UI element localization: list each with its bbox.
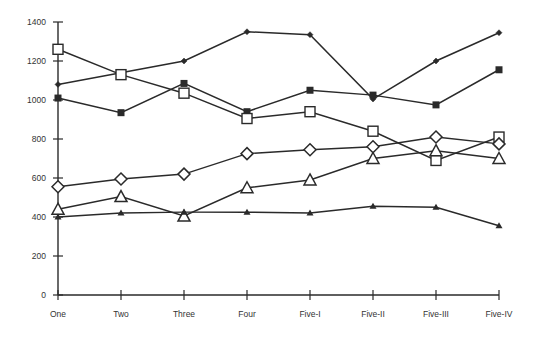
data-point-marker: [242, 114, 252, 124]
data-point-marker: [304, 174, 316, 185]
data-point-marker: [53, 44, 63, 54]
data-point-marker: [304, 144, 316, 156]
data-point-marker: [179, 88, 189, 98]
data-point-marker: [115, 173, 127, 185]
data-point-marker: [241, 148, 253, 160]
data-point-marker: [305, 107, 315, 117]
x-tick-label: Five-I: [299, 309, 320, 319]
y-axis: 0200400600800100012001400: [27, 17, 63, 300]
data-point-marker: [430, 145, 442, 156]
data-point-marker: [244, 29, 250, 35]
x-tick-label: One: [50, 309, 66, 319]
y-tick-label: 400: [32, 212, 46, 222]
series-layer: [52, 29, 505, 229]
x-tick-label: Five-IV: [486, 309, 513, 319]
data-point-marker: [307, 87, 314, 94]
data-point-marker: [181, 58, 187, 64]
data-point-marker: [116, 70, 126, 80]
data-point-marker: [370, 92, 377, 99]
data-point-marker: [496, 30, 502, 36]
data-point-marker: [178, 168, 190, 180]
series-small-diamond: [55, 29, 502, 102]
y-tick-label: 1400: [27, 17, 46, 27]
line-chart: 0200400600800100012001400 OneTwoThreeFou…: [0, 0, 534, 338]
data-point-marker: [496, 66, 503, 73]
y-tick-label: 200: [32, 251, 46, 261]
x-tick-label: Five-III: [423, 309, 449, 319]
data-point-marker: [118, 109, 125, 116]
x-axis: OneTwoThreeFourFive-IFive-IIFive-IIIFive…: [50, 290, 513, 319]
data-point-marker: [430, 131, 442, 143]
x-tick-label: Two: [113, 309, 129, 319]
series-line: [58, 32, 499, 99]
data-point-marker: [52, 181, 64, 193]
series-small-triangle: [55, 203, 503, 229]
x-tick-label: Three: [173, 309, 195, 319]
y-tick-label: 800: [32, 134, 46, 144]
x-tick-label: Five-II: [361, 309, 385, 319]
y-tick-label: 600: [32, 173, 46, 183]
data-point-marker: [55, 95, 62, 102]
data-point-marker: [368, 126, 378, 136]
y-tick-label: 1000: [27, 95, 46, 105]
y-tick-label: 1200: [27, 56, 46, 66]
x-tick-label: Four: [238, 309, 256, 319]
data-point-marker: [115, 191, 127, 202]
data-point-marker: [433, 101, 440, 108]
data-point-marker: [431, 155, 441, 165]
y-tick-label: 0: [41, 290, 46, 300]
data-point-marker: [55, 81, 61, 87]
data-point-marker: [181, 80, 188, 87]
